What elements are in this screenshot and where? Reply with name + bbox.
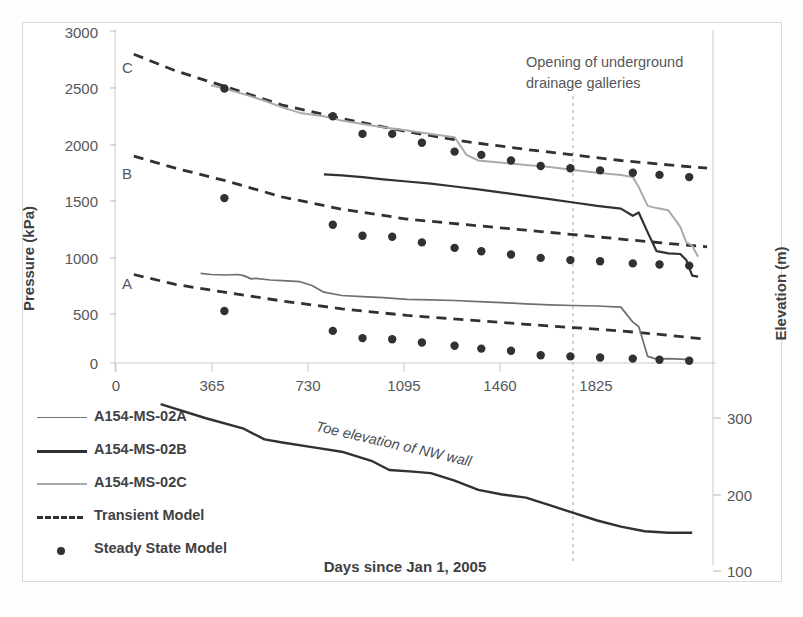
legend-label-c: A154-MS-02C [94, 474, 187, 490]
series-line-a [201, 273, 693, 359]
legend-key-line-b [37, 450, 87, 457]
steady-state-dot-b [450, 244, 458, 252]
steady-state-dot-b [596, 257, 604, 265]
steady-state-dot-a [629, 354, 637, 362]
steady-state-dot-a [537, 351, 545, 359]
transient-model-curves [134, 54, 707, 339]
steady-state-dot-c [220, 84, 228, 92]
steady-state-dot-c [537, 162, 545, 170]
steady-state-dot-a [685, 357, 693, 365]
steady-state-dot-b [507, 250, 515, 258]
legend-item-b[interactable]: A154-MS-02B [32, 436, 262, 469]
steady-state-dot-a [358, 334, 366, 342]
steady-state-dot-c [596, 166, 604, 174]
steady-state-dot-a [566, 352, 574, 360]
steady-state-dot-c [450, 147, 458, 155]
figure-root: 3000 2500 2000 1500 1000 500 0 0 365 730… [0, 0, 803, 617]
legend-label-steady: Steady State Model [94, 540, 227, 556]
legend-key-line-c [37, 483, 87, 489]
legend-item-c[interactable]: A154-MS-02C [32, 469, 262, 502]
steady-state-dot-b [566, 256, 574, 264]
steady-state-dot-c [388, 130, 396, 138]
steady-state-dot-b [537, 254, 545, 262]
steady-state-dot-c [566, 164, 574, 172]
steady-state-dot-c [655, 171, 663, 179]
legend: A154-MS-02A A154-MS-02B A154-MS-02C Tran… [32, 403, 262, 568]
series-line-c [211, 85, 698, 257]
legend-key-line-a [37, 417, 87, 422]
steady-state-dot-b [220, 194, 228, 202]
transient-model-c [134, 54, 707, 168]
steady-state-dot-c [685, 173, 693, 181]
legend-label-transient: Transient Model [94, 507, 204, 523]
legend-item-a[interactable]: A154-MS-02A [32, 403, 262, 436]
steady-state-dot-c [358, 130, 366, 138]
steady-state-dot-a [418, 338, 426, 346]
steady-state-dot-b [685, 261, 693, 269]
steady-state-dot-a [220, 307, 228, 315]
legend-item-transient[interactable]: Transient Model [32, 502, 262, 535]
legend-key-dashed [37, 516, 83, 523]
steady-state-dot-b [477, 247, 485, 255]
steady-state-dot-c [477, 151, 485, 159]
legend-item-steady[interactable]: Steady State Model [32, 535, 262, 568]
steady-state-dot-a [655, 356, 663, 364]
steady-state-dot-a [450, 342, 458, 350]
legend-label-b: A154-MS-02B [94, 441, 187, 457]
steady-state-dot-b [388, 233, 396, 241]
legend-label-a: A154-MS-02A [94, 408, 187, 424]
steady-state-dot-b [418, 238, 426, 246]
steady-state-dot-a [477, 344, 485, 352]
steady-state-dot-c [418, 139, 426, 147]
steady-state-dot-b [629, 259, 637, 267]
series-line-b [324, 174, 698, 276]
steady-state-dot-a [388, 335, 396, 343]
steady-state-dot-c [329, 112, 337, 120]
steady-state-dot-a [507, 347, 515, 355]
steady-state-dot-a [596, 353, 604, 361]
steady-state-dot-c [629, 169, 637, 177]
steady-state-dot-c [507, 156, 515, 164]
transient-model-b [134, 156, 707, 247]
legend-key-dot-marker [57, 547, 65, 555]
steady-state-dot-b [329, 221, 337, 229]
steady-state-dot-a [329, 327, 337, 335]
steady-state-dot-b [655, 260, 663, 268]
steady-state-dot-b [358, 232, 366, 240]
